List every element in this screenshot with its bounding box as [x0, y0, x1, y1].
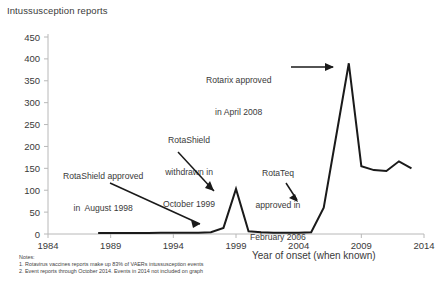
annotation-rotateq-approved: RotaTeq approved in February 2006: [250, 147, 306, 264]
y-axis-ticks: 050100150200250300350400450: [24, 32, 48, 240]
y-tick-label: 400: [24, 53, 40, 64]
y-tick-label: 200: [24, 141, 40, 152]
x-tick-label: 1999: [225, 240, 246, 251]
y-tick-label: 250: [24, 119, 40, 130]
x-axis-ticks: 1984198919941999200420092014: [37, 234, 434, 251]
y-tick-label: 0: [35, 229, 40, 240]
notes-block: Notes: 1. Rotavirus vaccines reports mak…: [19, 254, 203, 275]
annotation-line: February 2006: [250, 232, 306, 243]
y-tick-label: 150: [24, 163, 40, 174]
annotation-line: approved in: [250, 200, 306, 211]
y-tick-label: 50: [29, 207, 40, 218]
y-tick-label: 300: [24, 97, 40, 108]
x-tick-label: 1994: [163, 240, 184, 251]
note-item: 1. Rotavirus vaccines reports make up 83…: [19, 261, 203, 268]
annotation-line: Rotarix approved: [206, 75, 271, 86]
annotation-line: withdrawn in: [163, 167, 215, 178]
annotation-line: RotaShield approved: [63, 171, 143, 182]
plot-area: 050100150200250300350400450 198419891994…: [0, 0, 435, 291]
annotation-line: October 1999: [163, 199, 215, 210]
intussusception-reports-chart: Intussusception reports 0501001502002503…: [0, 0, 435, 291]
annotation-line: in August 1998: [63, 203, 143, 214]
x-axis-title: Year of onset (when known): [252, 250, 376, 261]
x-tick-label: 1984: [37, 240, 58, 251]
notes-heading: Notes:: [19, 254, 203, 261]
annotation-line: in April 2008: [206, 107, 271, 118]
x-tick-label: 2014: [413, 240, 434, 251]
y-tick-label: 450: [24, 32, 40, 43]
annotation-rotarix-approved: Rotarix approved in April 2008: [206, 54, 271, 139]
x-tick-label: 1989: [100, 240, 121, 251]
annotation-line: RotaTeq: [250, 168, 306, 179]
y-tick-label: 350: [24, 75, 40, 86]
note-item: 2. Event reports through October 2014. E…: [19, 268, 203, 275]
y-tick-label: 100: [24, 185, 40, 196]
annotation-rotashield-approved: RotaShield approved in August 1998: [63, 150, 143, 235]
